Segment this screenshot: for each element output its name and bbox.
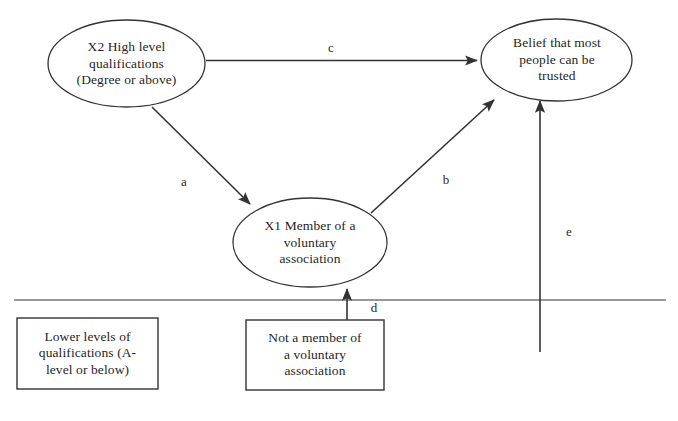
node-shape-not-member [246, 320, 384, 390]
node-shape-belief-trust [481, 19, 632, 101]
node-shape-x2-qualifications [48, 20, 205, 107]
path-diagram-figure: X2 High level qualifications (Degree or … [0, 0, 678, 421]
node-shape-lower-qualifications [17, 318, 158, 389]
path-label-e: e [559, 224, 579, 240]
path-label-d: d [364, 300, 384, 316]
path-label-a: a [174, 174, 194, 190]
diagram-vector-layer [0, 0, 678, 421]
path-label-b: b [436, 172, 456, 188]
node-shape-x1-member [233, 198, 387, 287]
path-label-c: c [321, 40, 341, 56]
arrow-path-b [371, 100, 494, 213]
arrow-path-a [152, 107, 250, 204]
